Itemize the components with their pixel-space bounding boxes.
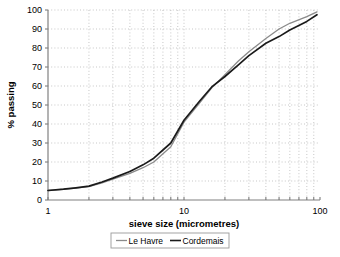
- legend: Le Havre Cordemais: [111, 233, 229, 248]
- x-axis-title: sieve size (micrometres): [129, 218, 239, 229]
- y-tick-label: 40: [32, 119, 42, 129]
- y-tick-label: 80: [32, 43, 42, 53]
- y-tick-label: 0: [37, 195, 42, 205]
- y-axis-title: % passing: [5, 81, 16, 128]
- legend-label-le-havre: Le Havre: [129, 236, 164, 246]
- y-tick-label: 10: [32, 176, 42, 186]
- y-tick-label: 30: [32, 138, 42, 148]
- chart-container: 0102030405060708090100 110100 % passing …: [0, 0, 340, 257]
- y-tick-label: 90: [32, 24, 42, 34]
- x-tick-label: 1: [45, 206, 50, 216]
- y-tick-label: 50: [32, 100, 42, 110]
- legend-label-cordemais: Cordemais: [183, 236, 224, 246]
- x-tick-label: 100: [312, 206, 327, 216]
- y-tick-label: 100: [27, 5, 42, 15]
- x-tick-label: 10: [179, 206, 189, 216]
- y-tick-label: 60: [32, 81, 42, 91]
- y-tick-label: 70: [32, 62, 42, 72]
- y-tick-label: 20: [32, 157, 42, 167]
- grain-size-distribution-chart: 0102030405060708090100 110100 % passing …: [0, 0, 340, 257]
